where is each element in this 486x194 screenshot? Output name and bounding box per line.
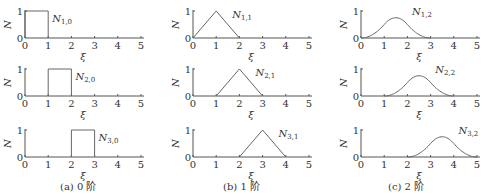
x-tick-label: 2	[68, 159, 74, 170]
x-tick-label: 5	[474, 159, 480, 170]
x-tick-label: 1	[45, 40, 51, 51]
x-axis-label: ξ	[416, 51, 422, 62]
x-tick-label: 1	[381, 159, 387, 170]
y-axis-label: N	[170, 138, 181, 149]
x-tick-label: 1	[213, 159, 219, 170]
x-tick-label: 4	[283, 98, 289, 109]
curve-label: N3,2	[457, 125, 478, 138]
y-tick-label: 1	[185, 64, 191, 75]
y-axis-label: N	[338, 77, 349, 88]
plot-c-2: 01234501NξN2,2	[338, 64, 480, 120]
y-tick-label: 0	[353, 33, 359, 44]
curve-label: N1,2	[411, 6, 432, 19]
basis-function-curve	[384, 76, 454, 96]
x-tick-label: 2	[236, 98, 242, 109]
y-tick-label: 0	[17, 152, 23, 163]
x-tick-label: 5	[306, 159, 312, 170]
x-tick-label: 3	[427, 40, 433, 51]
x-tick-label: 3	[259, 159, 265, 170]
x-tick-label: 5	[306, 40, 312, 51]
x-tick-label: 2	[404, 98, 410, 109]
x-axis-label: ξ	[80, 51, 86, 62]
plot-a-2: 01234501NξN2,0	[2, 64, 144, 120]
y-tick-label: 1	[17, 64, 23, 75]
x-tick-label: 2	[236, 40, 242, 51]
x-tick-label: 5	[474, 40, 480, 51]
curve-label: N2,0	[74, 71, 95, 84]
x-tick-label: 5	[138, 159, 144, 170]
x-tick-label: 1	[45, 159, 51, 170]
plot-a-3: 01234501NξN3,0	[2, 125, 144, 181]
x-tick-label: 3	[259, 98, 265, 109]
x-tick-label: 4	[283, 159, 289, 170]
y-tick-label: 0	[17, 33, 23, 44]
x-axis-label: ξ	[248, 109, 254, 120]
y-tick-label: 1	[185, 6, 191, 17]
x-tick-label: 5	[474, 98, 480, 109]
y-axis-label: N	[2, 77, 13, 88]
plot-c-1: 01234501NξN1,2	[338, 6, 480, 62]
y-tick-label: 0	[185, 152, 191, 163]
y-axis-label: N	[338, 138, 349, 149]
x-tick-label: 3	[91, 98, 97, 109]
y-axis-label: N	[2, 138, 13, 149]
x-tick-label: 3	[91, 40, 97, 51]
x-tick-label: 3	[259, 40, 265, 51]
plot-b-1: 01234501NξN1,1	[170, 6, 312, 62]
curve-label: N2,1	[254, 67, 275, 80]
x-tick-label: 1	[381, 98, 387, 109]
x-tick-label: 4	[115, 98, 121, 109]
y-tick-label: 0	[185, 33, 191, 44]
y-tick-label: 0	[353, 91, 359, 102]
y-tick-label: 1	[185, 125, 191, 136]
y-axis-label: N	[2, 19, 13, 30]
x-axis-label: ξ	[416, 109, 422, 120]
x-tick-label: 1	[45, 98, 51, 109]
plot-a-1: 01234501NξN1,0	[2, 6, 144, 62]
y-tick-label: 1	[353, 64, 359, 75]
caption-c: (c) 2 阶	[388, 178, 424, 193]
x-axis-label: ξ	[248, 51, 254, 62]
x-tick-label: 1	[213, 40, 219, 51]
plot-c-3: 01234501NξN3,2	[338, 125, 480, 181]
curve-label: N3,1	[278, 128, 299, 141]
y-tick-label: 1	[353, 125, 359, 136]
caption-b: (b) 1 阶	[223, 178, 260, 193]
x-tick-label: 5	[306, 98, 312, 109]
x-tick-label: 4	[283, 40, 289, 51]
x-tick-label: 2	[68, 98, 74, 109]
y-axis-label: N	[170, 19, 181, 30]
curve-label: N3,0	[98, 132, 119, 145]
x-tick-label: 5	[138, 40, 144, 51]
basis-function-curve	[407, 137, 477, 157]
plot-b-3: 01234501NξN3,1	[170, 125, 312, 181]
y-tick-label: 1	[353, 6, 359, 17]
curve-label: N2,2	[434, 64, 455, 77]
x-tick-label: 5	[138, 98, 144, 109]
y-tick-label: 0	[185, 91, 191, 102]
x-tick-label: 4	[115, 40, 121, 51]
caption-a: (a) 0 阶	[60, 178, 96, 193]
x-tick-label: 3	[91, 159, 97, 170]
x-tick-label: 4	[451, 159, 457, 170]
x-tick-label: 1	[213, 98, 219, 109]
x-tick-label: 1	[381, 40, 387, 51]
x-tick-label: 2	[404, 159, 410, 170]
y-tick-label: 0	[17, 91, 23, 102]
y-tick-label: 1	[17, 125, 23, 136]
plot-b-2: 01234501NξN2,1	[170, 64, 312, 120]
y-tick-label: 0	[353, 152, 359, 163]
y-axis-label: N	[170, 77, 181, 88]
x-tick-label: 4	[451, 40, 457, 51]
basis-function-curve	[25, 11, 48, 38]
x-tick-label: 4	[451, 98, 457, 109]
y-tick-label: 1	[17, 6, 23, 17]
basis-function-curve	[48, 69, 71, 96]
basis-function-curve	[361, 18, 431, 38]
curve-label: N1,1	[231, 9, 252, 22]
basis-function-curve	[71, 130, 94, 157]
x-tick-label: 3	[427, 98, 433, 109]
x-tick-label: 4	[115, 159, 121, 170]
x-tick-label: 2	[236, 159, 242, 170]
x-tick-label: 3	[427, 159, 433, 170]
